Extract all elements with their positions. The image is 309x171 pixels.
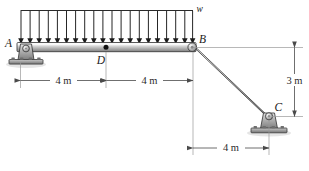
label-point-c: C (275, 101, 283, 113)
extension-lines (21, 48, 304, 156)
figure-canvas: 4 m 4 m 3 m 4 m A B C D w (0, 0, 309, 171)
dimension-vertical-label: 3 m (286, 75, 302, 86)
support-a-pin-center (25, 47, 27, 49)
load-arrows (21, 11, 193, 41)
dimension-vertical-3m: 3 m (281, 48, 308, 117)
label-point-b: B (199, 33, 206, 45)
member-bc-body (191, 44, 271, 119)
dimension-ad-label: 4 m (55, 75, 71, 86)
dimension-db-label: 4 m (141, 75, 157, 86)
support-a-base-plate (9, 60, 43, 65)
distributed-load-group (21, 11, 194, 42)
label-point-a: A (4, 37, 13, 49)
dimension-ad: 4 m (21, 74, 107, 86)
dimension-db: 4 m (107, 74, 193, 86)
point-d-marker (104, 45, 109, 50)
dimension-bottom-4m: 4 m (193, 141, 269, 153)
label-load-w: w (197, 4, 204, 14)
member-bc (191, 44, 271, 119)
dimension-bottom-label: 4 m (223, 142, 239, 153)
label-point-d: D (96, 54, 106, 66)
statics-diagram: 4 m 4 m 3 m 4 m A B C D w (0, 0, 309, 171)
support-c-pin-center (268, 115, 270, 117)
